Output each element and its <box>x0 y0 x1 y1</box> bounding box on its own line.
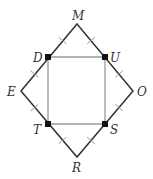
label-M: M <box>71 9 85 23</box>
label-O: O <box>137 85 147 99</box>
label-S: S <box>110 123 118 137</box>
label-E: E <box>6 85 16 99</box>
point-S <box>102 121 108 127</box>
label-R: R <box>71 161 81 175</box>
label-U: U <box>110 51 121 65</box>
point-U <box>102 54 108 60</box>
geometry-diagram: M U O S R T E D <box>0 0 153 179</box>
vertex-points <box>45 54 108 127</box>
label-D: D <box>32 51 43 65</box>
inner-square-DUST <box>48 57 105 124</box>
label-T: T <box>33 123 42 137</box>
tick-marks <box>31 37 123 144</box>
point-D <box>45 54 51 60</box>
point-T <box>45 121 51 127</box>
outer-quadrilateral-MOER <box>21 24 133 157</box>
